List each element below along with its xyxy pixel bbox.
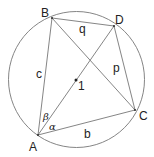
label-side-q: q <box>79 22 86 36</box>
vertex-c-dot <box>134 109 136 111</box>
vertex-b-dot <box>51 17 53 19</box>
label-side-b: b <box>84 127 91 141</box>
label-c: C <box>139 109 148 123</box>
vertex-a-dot <box>37 134 39 136</box>
label-d: D <box>115 13 124 27</box>
label-side-p: p <box>113 61 120 75</box>
geometry-diagram: B D C A 1 q c p b β α <box>0 0 154 157</box>
label-angle-beta: β <box>42 111 49 122</box>
label-side-c: c <box>36 67 42 81</box>
label-angle-alpha: α <box>49 121 56 132</box>
diagonal-bc <box>52 18 135 110</box>
label-b: B <box>41 6 49 20</box>
label-center: 1 <box>78 79 85 93</box>
label-a: A <box>29 140 37 154</box>
